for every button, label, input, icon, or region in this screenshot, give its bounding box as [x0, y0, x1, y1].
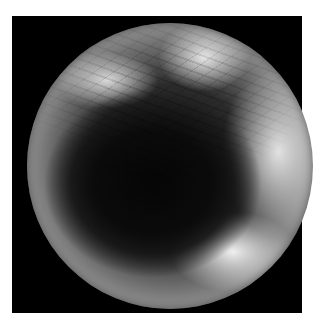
endoscopic-view	[27, 23, 313, 309]
image-frame	[12, 16, 302, 313]
scope-rim	[27, 23, 313, 309]
